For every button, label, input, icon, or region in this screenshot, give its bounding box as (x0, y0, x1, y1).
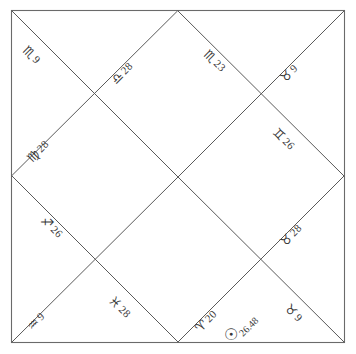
planet-entry-sun[interactable]: ☉26.48 (224, 325, 264, 343)
vedic-birth-chart: ♏9 ♎28 ♏23 ♉9 ♍28 ♊26 ♐26 ♉28 ♒9 (0, 0, 356, 354)
chart-grid (0, 0, 356, 354)
